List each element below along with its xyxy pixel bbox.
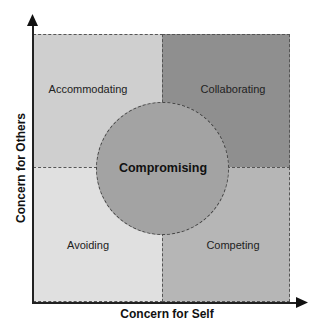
x-axis-label: Concern for Self: [120, 307, 213, 321]
label-avoiding: Avoiding: [67, 239, 109, 251]
y-axis-arrow-icon: [27, 14, 38, 26]
y-axis: [32, 22, 34, 303]
label-collaborating: Collaborating: [201, 83, 266, 95]
y-axis-label: Concern for Others: [14, 113, 28, 223]
label-accommodating: Accommodating: [49, 83, 128, 95]
x-axis-arrow-icon: [296, 297, 308, 308]
label-competing: Competing: [206, 239, 259, 251]
label-compromising: Compromising: [119, 161, 207, 175]
x-axis: [32, 302, 298, 304]
